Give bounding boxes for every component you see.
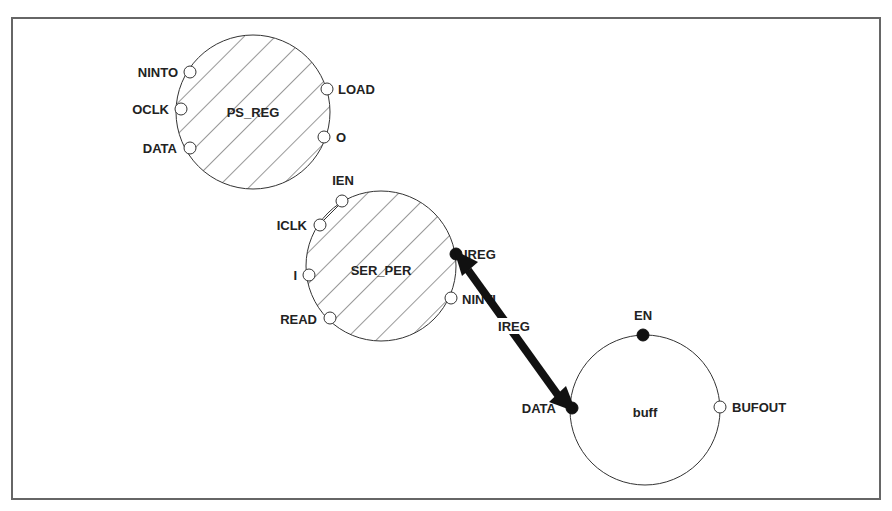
port-oclk-label: OCLK — [132, 102, 169, 117]
port-i-icon[interactable] — [303, 269, 315, 281]
buff-title: buff — [633, 405, 658, 420]
edge-ireg[interactable]: IREG — [454, 250, 576, 412]
port-read-label: READ — [280, 312, 317, 327]
port-iclk-icon[interactable] — [314, 219, 326, 231]
ps-reg-title: PS_REG — [227, 105, 280, 120]
port-load-label: LOAD — [338, 82, 375, 97]
port-ninto-icon[interactable] — [184, 66, 196, 78]
port-bufout-icon[interactable] — [714, 401, 726, 413]
port-i-label: I — [293, 268, 297, 283]
port-data-label: DATA — [143, 141, 178, 156]
ser-per-title: SER_PER — [351, 263, 412, 278]
diagram-svg: PS_REG NINTO OCLK DATA LOAD O SER_PER IE… — [0, 0, 892, 511]
port-en-label: EN — [634, 308, 652, 323]
port-o-label: O — [336, 130, 346, 145]
edge-label: IREG — [498, 319, 530, 334]
port-oclk-icon[interactable] — [175, 103, 187, 115]
port-read-icon[interactable] — [324, 312, 336, 324]
port-data-icon[interactable] — [184, 142, 196, 154]
port-iclk-label: ICLK — [277, 218, 308, 233]
port-ninti-icon[interactable] — [445, 292, 457, 304]
port-ninto-label: NINTO — [138, 65, 178, 80]
port-load-icon[interactable] — [321, 83, 333, 95]
port-o-icon[interactable] — [318, 131, 330, 143]
port-ien-icon[interactable] — [336, 195, 348, 207]
port-bufout-label: BUFOUT — [732, 400, 786, 415]
port-data-in-label: DATA — [522, 401, 557, 416]
port-ien-label: IEN — [332, 173, 354, 188]
port-en-icon[interactable] — [637, 329, 649, 341]
